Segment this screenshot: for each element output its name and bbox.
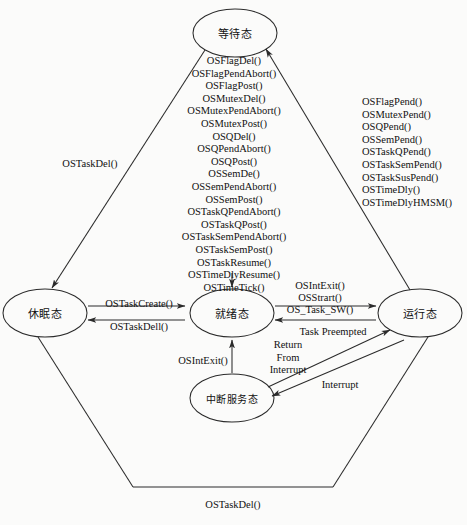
edge-bottom-right-leg	[333, 337, 428, 487]
api-call-item: OSTimeDlyHMSM()	[362, 197, 452, 210]
edge-label-return-line-3: Interrupt	[270, 364, 307, 375]
edge-label-task-create: OSTaskCreate()	[105, 298, 173, 309]
state-label-ready: 就绪态	[215, 305, 250, 321]
api-call-item: OSTaskSemPost()	[182, 244, 286, 257]
api-call-item: OSQPendAbort()	[182, 143, 286, 156]
api-call-item: OSQPend()	[362, 121, 452, 134]
edge-label-task-del-bottom: OSTaskDel()	[205, 499, 260, 510]
edge-label-os-task-sw: OS_Task_SW()	[287, 304, 353, 315]
api-call-item: OSTaskQPendAbort()	[182, 206, 286, 219]
api-call-item: OSMutexPost()	[182, 118, 286, 131]
edge-label-int-exit-run: OSIntExit()	[295, 280, 345, 291]
api-call-item: OSTaskQPost()	[182, 219, 286, 232]
edge-label-task-dell: OSTaskDell()	[110, 321, 168, 332]
api-call-item: OSQPost()	[182, 156, 286, 169]
api-list-post-and-resume-calls: OSFlagDel()OSFlagPendAbort()OSFlagPost()…	[182, 55, 286, 294]
api-call-item: OSTimeTick()	[182, 282, 286, 295]
api-call-item: OSQDel()	[182, 131, 286, 144]
api-call-item: OSSemPend()	[362, 134, 452, 147]
edge-label-interrupt: Interrupt	[322, 379, 359, 390]
api-call-item: OSFlagPend()	[362, 96, 452, 109]
api-call-item: OSSemPost()	[182, 194, 286, 207]
edge-label-task-del-left: OSTaskDel()	[62, 158, 117, 169]
edge-bottom-left-leg	[38, 337, 133, 487]
api-call-item: OSTaskResume()	[182, 257, 286, 270]
edge-label-int-exit-ready: OSIntExit()	[178, 355, 228, 366]
api-call-item: OSTimeDly()	[362, 184, 452, 197]
edge-label-os-start: OSStrart()	[298, 292, 342, 303]
state-label-waiting: 等待态	[218, 25, 253, 41]
edge-label-return-line-2: From	[277, 352, 300, 363]
api-call-item: OSMutexPend()	[362, 109, 452, 122]
api-call-item: OSTaskSemPend()	[362, 159, 452, 172]
state-label-running: 运行态	[403, 305, 438, 321]
state-label-dormant: 休眠态	[28, 305, 63, 321]
edge-label-return-line-1: Return	[274, 339, 303, 350]
api-call-item: OSFlagPost()	[182, 80, 286, 93]
state-diagram: 等待态 休眠态 就绪态 运行态 中断服务态 OSTaskDel() OSTask…	[0, 0, 467, 525]
state-label-isr: 中断服务态	[206, 391, 259, 406]
api-call-item: OSFlagPendAbort()	[182, 68, 286, 81]
api-call-item: OSSemPendAbort()	[182, 181, 286, 194]
api-call-item: OSSemDe()	[182, 168, 286, 181]
api-call-item: OSMutexDel()	[182, 93, 286, 106]
api-call-item: OSTaskSusPend()	[362, 172, 452, 185]
edge-label-task-preempted: Task Preempted	[299, 326, 366, 337]
api-call-item: OSTimeDlyResume()	[182, 269, 286, 282]
api-call-item: OSTaskSemPendAbort()	[182, 231, 286, 244]
api-list-pend-calls: OSFlagPend()OSMutexPend()OSQPend()OSSemP…	[362, 96, 452, 209]
api-call-item: OSMutexPendAbort()	[182, 105, 286, 118]
api-call-item: OSFlagDel()	[182, 55, 286, 68]
api-call-item: OSTaskQPend()	[362, 146, 452, 159]
